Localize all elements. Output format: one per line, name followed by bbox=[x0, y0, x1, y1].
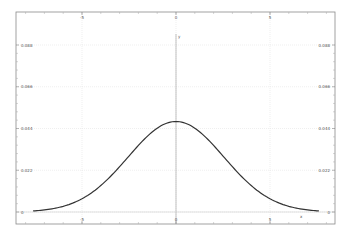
y-tick-label-right: 0.044 bbox=[319, 126, 331, 131]
chart: 000.0220.0220.0440.0440.0660.0660.0880.0… bbox=[0, 0, 352, 234]
x-tick-label-bottom: 0 bbox=[175, 217, 178, 222]
y-tick-label-right: 0.022 bbox=[319, 168, 331, 173]
y-tick-label-left: 0.088 bbox=[21, 43, 33, 48]
y-tick-label-left: 0.066 bbox=[21, 84, 33, 89]
x-tick-label-bottom: 5 bbox=[269, 217, 272, 222]
y-tick-label-left: 0.022 bbox=[21, 168, 33, 173]
y-tick-label-right: 0.088 bbox=[319, 43, 331, 48]
x-tick-label-top: 0 bbox=[175, 15, 178, 20]
x-tick-label-top: -5 bbox=[80, 15, 84, 20]
y-tick-label-left: 0.044 bbox=[21, 126, 33, 131]
x-tick-label-top: 5 bbox=[269, 15, 272, 20]
y-tick-label-right: 0.066 bbox=[319, 84, 331, 89]
x-tick-label-bottom: -5 bbox=[80, 217, 84, 222]
